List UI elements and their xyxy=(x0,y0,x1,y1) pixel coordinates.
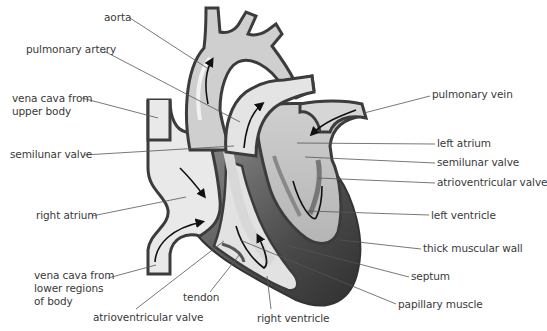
label-vena-cava-lower: vena cava from lower regions of body xyxy=(34,269,114,308)
vena-cava-upper-shape xyxy=(148,100,170,140)
label-right-ventricle: right ventricle xyxy=(257,312,329,325)
label-right-atrium: right atrium xyxy=(36,209,97,222)
label-semilunar-valve-left: semilunar valve xyxy=(10,148,92,161)
label-atrioventricular-valve-right: atrioventricular valve xyxy=(437,176,547,189)
leader-pulmonary-vein xyxy=(364,96,430,113)
label-thick-muscular-wall: thick muscular wall xyxy=(423,242,523,255)
label-papillary-muscle: papillary muscle xyxy=(398,298,483,311)
label-tendon: tendon xyxy=(183,291,219,304)
label-atrioventricular-valve-left: atrioventricular valve xyxy=(93,311,203,324)
label-semilunar-valve-right: semilunar valve xyxy=(437,156,519,169)
label-left-ventricle: left ventricle xyxy=(431,209,496,222)
label-aorta: aorta xyxy=(104,11,131,24)
label-septum: septum xyxy=(411,270,450,283)
label-left-atrium: left atrium xyxy=(437,137,491,150)
leader-aorta xyxy=(130,18,207,68)
label-vena-cava-upper: vena cava from upper body xyxy=(12,92,92,118)
label-pulmonary-artery: pulmonary artery xyxy=(26,43,116,56)
label-pulmonary-vein: pulmonary vein xyxy=(432,88,513,101)
